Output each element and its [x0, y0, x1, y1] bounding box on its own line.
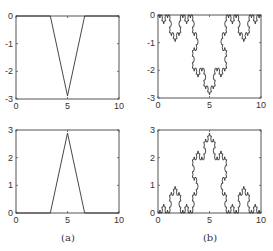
x-tick-label: 0	[155, 215, 160, 225]
x-tick-label: 10	[114, 215, 124, 225]
x-tick-label: 5	[65, 101, 70, 111]
x-tick-label: 0	[13, 215, 18, 225]
axes-frame	[16, 16, 119, 99]
caption-a: (a)	[61, 232, 75, 243]
data-line	[158, 133, 261, 213]
y-tick-label: -1	[147, 38, 155, 48]
figure: 05100-1-2-3 05100-1-2-3 05100123 0510012…	[0, 0, 273, 251]
y-tick-label: -3	[147, 93, 155, 103]
x-tick-label: 5	[65, 215, 70, 225]
y-tick-label: 2	[150, 153, 155, 163]
panel-b-top: 05100-1-2-3	[147, 10, 266, 110]
x-tick-label: 10	[256, 215, 266, 225]
y-tick-label: -2	[147, 65, 155, 75]
axes-frame	[158, 130, 261, 213]
x-tick-label: 5	[207, 100, 212, 110]
y-tick-label: -3	[5, 94, 13, 104]
data-line	[16, 16, 119, 96]
y-tick-label: 2	[8, 153, 13, 163]
x-tick-label: 10	[114, 101, 124, 111]
y-tick-label: 0	[150, 208, 155, 218]
x-tick-label: 5	[207, 215, 212, 225]
axes-frame	[158, 15, 261, 98]
panel-a-top: 05100-1-2-3	[5, 11, 124, 111]
y-tick-label: 0	[8, 11, 13, 21]
axes-frame	[16, 130, 119, 213]
y-tick-label: 1	[8, 180, 13, 190]
x-tick-label: 0	[13, 101, 18, 111]
x-tick-label: 0	[155, 100, 160, 110]
y-tick-label: -1	[5, 39, 13, 49]
data-line	[158, 15, 261, 95]
panel-b-bottom: 05100123	[150, 125, 266, 225]
y-tick-label: 0	[150, 10, 155, 20]
y-tick-label: -2	[5, 66, 13, 76]
y-tick-label: 3	[8, 125, 13, 135]
panel-a-bottom: 05100123	[8, 125, 124, 225]
y-tick-label: 0	[8, 208, 13, 218]
caption-b: (b)	[203, 232, 217, 243]
data-line	[16, 133, 119, 213]
y-tick-label: 3	[150, 125, 155, 135]
y-tick-label: 1	[150, 180, 155, 190]
x-tick-label: 10	[256, 100, 266, 110]
